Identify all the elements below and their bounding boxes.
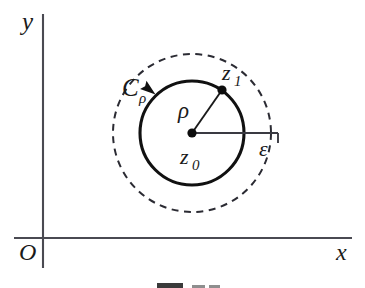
rho-radius-line: [192, 90, 222, 133]
point-z1-label-base: z: [221, 60, 231, 85]
point-z0-label-subscript: 0: [192, 157, 200, 173]
contour-label-subscript: ρ: [138, 90, 146, 106]
point-z1-label-subscript: 1: [234, 73, 242, 89]
point-z1-dot: [217, 85, 226, 94]
axes-group: [14, 14, 352, 268]
complex-plane-figure: y x O C ρ ρ ε z 0 z 1: [0, 0, 365, 288]
contour-label-base: C: [122, 74, 139, 101]
point-z0-label-base: z: [179, 144, 189, 169]
point-z0-label: z 0: [179, 144, 200, 173]
origin-label: O: [19, 239, 36, 265]
rho-label: ρ: [177, 98, 189, 123]
epsilon-label: ε: [259, 136, 268, 161]
contour-label-c-rho: C ρ: [122, 74, 146, 106]
x-axis-label: x: [335, 239, 347, 265]
point-z0-dot: [187, 128, 196, 137]
y-axis-label: y: [19, 8, 34, 35]
caption-remnant: [157, 283, 220, 288]
